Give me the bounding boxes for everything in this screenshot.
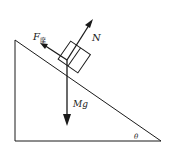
angle-label: θ (134, 133, 139, 141)
normal-force-label: N (91, 32, 102, 43)
gravity-label: Mg (72, 99, 88, 109)
friction-label: F摩 (32, 31, 46, 44)
gravity-arrow (63, 60, 71, 126)
incline-diagram: F摩 N Mg θ (0, 0, 174, 155)
